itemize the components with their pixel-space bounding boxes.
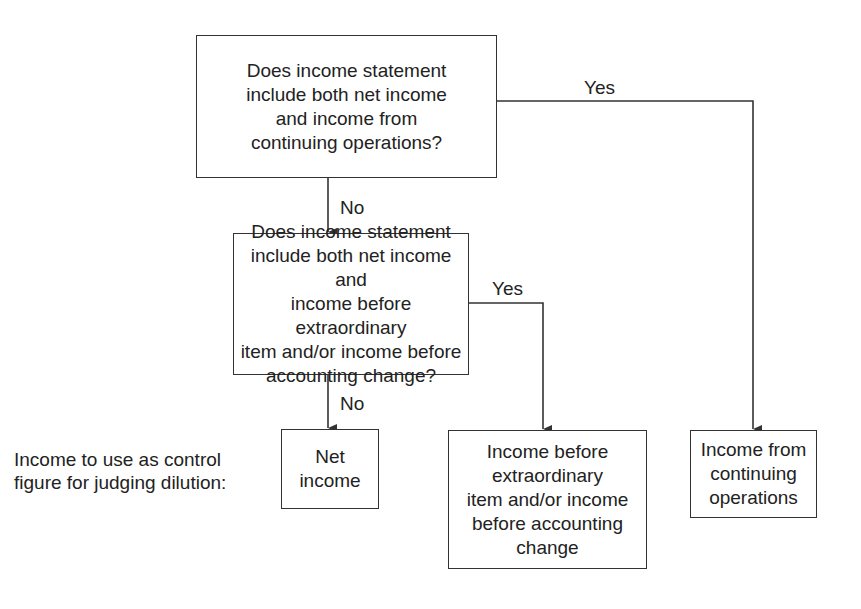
- before-line: extraordinary: [467, 464, 629, 488]
- continuing-line: continuing: [701, 462, 807, 486]
- edge-q1-yes: [496, 101, 753, 429]
- q2-line: item and/or income before: [234, 340, 468, 364]
- edge-q2-yes: [468, 303, 543, 429]
- result-before-extraordinary-box: Income before extraordinary item and/or …: [448, 430, 647, 569]
- q2-line: accounting change?: [234, 364, 468, 388]
- result-net-income-box: Net income: [281, 429, 379, 509]
- before-line: item and/or income: [467, 488, 629, 512]
- q1-line: continuing operations?: [246, 131, 447, 155]
- q2-no-label: No: [340, 392, 364, 416]
- before-line: change: [467, 536, 629, 560]
- q2-yes-label: Yes: [492, 277, 523, 301]
- q2-line: Does income statement: [234, 220, 468, 244]
- net-income-line: Net: [299, 445, 360, 469]
- q1-yes-label: Yes: [584, 76, 615, 100]
- continuing-line: Income from: [701, 438, 807, 462]
- q1-line: Does income statement: [246, 59, 447, 83]
- before-line: before accounting: [467, 512, 629, 536]
- control-figure-label: Income to use as control figure for judg…: [14, 448, 226, 494]
- before-line: Income before: [467, 440, 629, 464]
- continuing-line: operations: [701, 486, 807, 510]
- side-label-line: Income to use as control: [14, 448, 226, 471]
- q1-no-label: No: [340, 196, 364, 220]
- decision-q2-box: Does income statement include both net i…: [233, 233, 469, 375]
- net-income-line: income: [299, 469, 360, 493]
- side-label-line: figure for judging dilution:: [14, 471, 226, 494]
- q1-line: and income from: [246, 107, 447, 131]
- q2-line: income before extraordinary: [234, 292, 468, 340]
- q2-line: include both net income and: [234, 244, 468, 292]
- decision-q1-box: Does income statement include both net i…: [196, 35, 497, 178]
- result-continuing-operations-box: Income from continuing operations: [690, 430, 817, 518]
- q1-line: include both net income: [246, 83, 447, 107]
